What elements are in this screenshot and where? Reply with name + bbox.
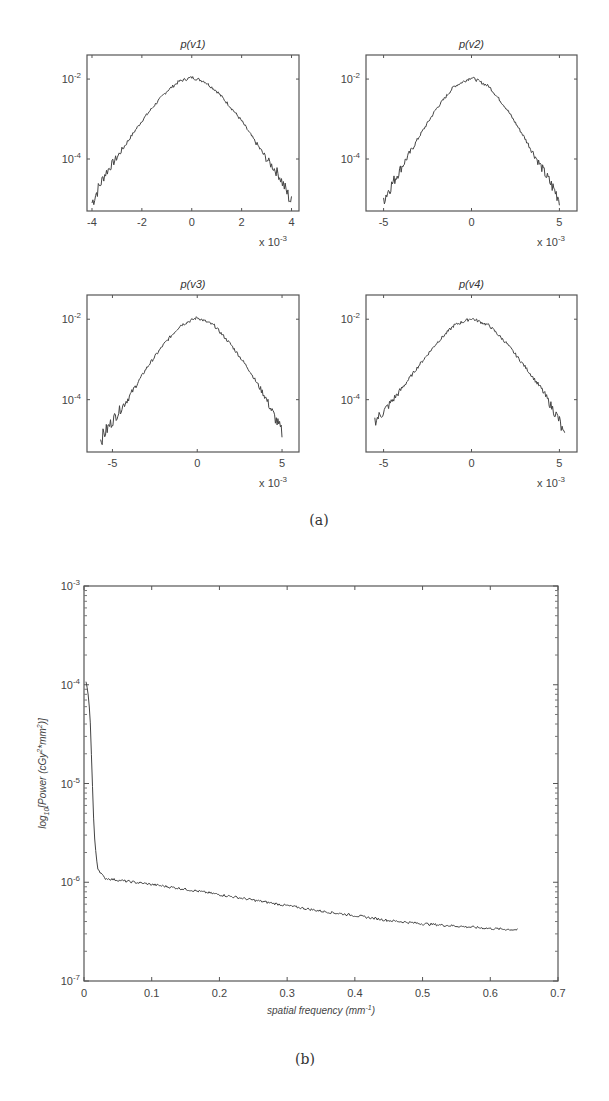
x-tick-label: -5 [379,216,389,228]
svg-text:10-4: 10-4 [341,151,361,165]
axes-frame [84,586,558,981]
svg-text:10-6: 10-6 [61,874,81,888]
x-tick-label: -5 [108,457,118,469]
svg-text:10-2: 10-2 [62,311,82,325]
svg-text:10-5: 10-5 [61,776,81,790]
figure-canvas: p(v1)-4-202410-210-4x 10-3p(v2)-50510-21… [0,0,609,1101]
svg-text:10-4: 10-4 [62,392,82,406]
x-tick-label: 4 [288,216,294,228]
x-tick-label: 2 [239,216,245,228]
pdf-curve [101,317,282,445]
caption-b: (b) [295,1051,315,1067]
svg-text:10-7: 10-7 [61,973,81,987]
pdf-curve [384,77,560,205]
x-tick-label: -5 [379,457,389,469]
subplot-4: p(v4)-50510-210-4x 10-3 [341,278,577,489]
x-tick-label: 0.7 [550,987,565,999]
subplot-title: p(v4) [458,278,484,290]
svg-text:10-2: 10-2 [62,71,82,85]
x-tick-label: 0.4 [347,987,362,999]
x-axis-label: spatial frequency (mm-1) [267,1004,375,1016]
x-tick-label: -2 [137,216,147,228]
x-tick-label: 0 [194,457,200,469]
svg-text:x 10-3: x 10-3 [259,475,287,489]
pdf-curve [92,77,292,205]
subplot-1: p(v1)-4-202410-210-4x 10-3 [62,38,299,248]
x-tick-label: 5 [279,457,285,469]
x-tick-label: 0 [468,216,474,228]
x-tick-label: 0.3 [279,987,294,999]
x-tick-label: 0.5 [415,987,430,999]
subplot-title: p(v2) [458,38,484,50]
axes-frame [87,295,299,452]
x-tick-label: 0 [468,457,474,469]
axes-frame [366,295,577,452]
svg-text:x 10-3: x 10-3 [537,475,565,489]
svg-text:10-2: 10-2 [341,311,361,325]
y-axis-label: log10[Power (cGy2*mm2)] [36,718,50,829]
subplot-3: p(v3)-50510-210-4x 10-3 [62,278,299,489]
x-tick-label: 5 [556,457,562,469]
svg-text:10-4: 10-4 [62,151,82,165]
x-tick-label: 0 [189,216,195,228]
power-curve [86,682,517,931]
x-tick-label: 5 [556,216,562,228]
svg-text:10-3: 10-3 [61,578,81,592]
x-tick-label: -4 [87,216,97,228]
svg-text:x 10-3: x 10-3 [259,234,287,248]
caption-a: (a) [309,512,328,528]
subplot-title: p(v3) [179,278,205,290]
x-tick-label: 0.6 [483,987,498,999]
svg-text:10-2: 10-2 [341,71,361,85]
svg-text:10-4: 10-4 [61,677,81,691]
subplot-2: p(v2)-50510-210-4x 10-3 [341,38,577,248]
x-tick-label: 0 [81,987,87,999]
power-spectrum-plot: 00.10.20.30.40.50.60.710-710-610-510-410… [36,578,566,1016]
subplot-title: p(v1) [179,38,205,50]
pdf-curve [375,319,565,433]
x-tick-label: 0.2 [212,987,227,999]
svg-text:x 10-3: x 10-3 [537,234,565,248]
x-tick-label: 0.1 [144,987,159,999]
svg-text:10-4: 10-4 [341,392,361,406]
